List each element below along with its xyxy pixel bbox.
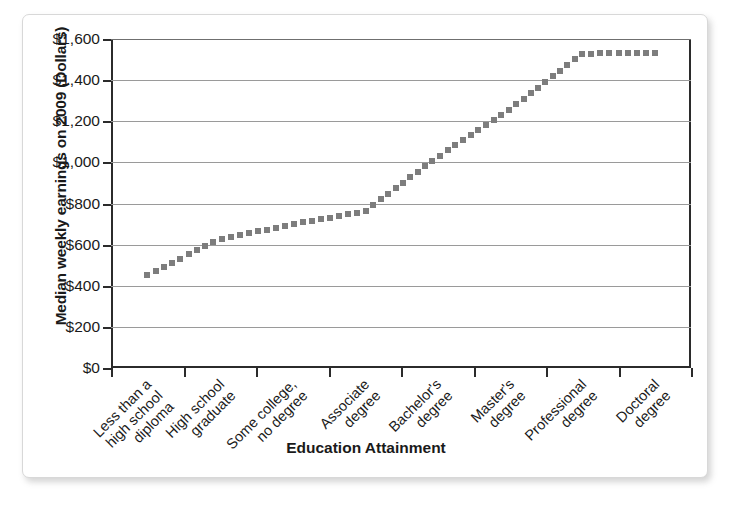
data-point: [370, 202, 376, 208]
x-tick-mark: [691, 368, 693, 377]
data-point: [579, 51, 585, 57]
y-tick-mark: [103, 327, 111, 329]
x-category-label: Bachelor'sdegree: [386, 376, 457, 447]
data-point: [345, 211, 351, 217]
data-point: [273, 225, 279, 231]
data-point: [153, 268, 159, 274]
plot-area: $0$200$400$600$800$1,000$1,200$1,400$1,6…: [111, 39, 691, 368]
data-point: [445, 147, 451, 153]
data-point: [264, 227, 270, 233]
y-tick-label: $800: [66, 195, 100, 213]
data-point: [219, 236, 225, 242]
data-point: [336, 213, 342, 219]
data-point: [542, 79, 548, 85]
x-axis-title: Education Attainment: [23, 439, 709, 457]
data-point: [437, 153, 443, 159]
y-tick-label: $1,600: [53, 30, 100, 48]
data-point: [460, 137, 466, 143]
data-point: [354, 210, 360, 216]
x-category-label: Master'sdegree: [467, 376, 528, 437]
y-tick-mark: [103, 162, 111, 164]
y-tick-label: $1,000: [53, 153, 100, 171]
y-tick-mark: [103, 121, 111, 123]
data-point: [415, 169, 421, 175]
data-point: [228, 234, 234, 240]
data-point: [407, 174, 413, 180]
data-point: [210, 239, 216, 245]
y-tick-label: $200: [66, 318, 100, 336]
y-tick-mark: [103, 245, 111, 247]
data-point: [452, 142, 458, 148]
x-category-label: Associatedegree: [316, 376, 383, 443]
data-point: [177, 256, 183, 262]
data-point: [521, 96, 527, 102]
data-point: [161, 264, 167, 270]
data-point: [550, 73, 556, 79]
data-point: [513, 101, 519, 107]
data-point: [475, 127, 481, 133]
data-series-earnings: [111, 39, 691, 368]
data-point: [202, 243, 208, 249]
data-point: [588, 51, 594, 57]
data-point: [422, 163, 428, 169]
data-point: [393, 185, 399, 191]
data-point: [506, 107, 512, 113]
data-point: [169, 260, 175, 266]
x-category-label: Doctoraldegree: [613, 376, 674, 437]
data-point: [246, 230, 252, 236]
data-point: [400, 180, 406, 186]
y-tick-mark: [103, 286, 111, 288]
data-point: [186, 251, 192, 257]
data-point: [237, 232, 243, 238]
data-point: [643, 50, 649, 56]
data-point: [652, 50, 658, 56]
data-point: [597, 50, 603, 56]
data-point: [528, 90, 534, 96]
y-tick-label: $1,200: [53, 112, 100, 130]
data-point: [363, 208, 369, 214]
data-point: [385, 191, 391, 197]
data-point: [255, 228, 261, 234]
y-tick-mark: [103, 80, 111, 82]
data-point: [429, 158, 435, 164]
data-point: [318, 216, 324, 222]
data-point: [282, 223, 288, 229]
data-point: [634, 50, 640, 56]
y-tick-mark: [103, 368, 111, 370]
y-tick-mark: [103, 204, 111, 206]
data-point: [327, 215, 333, 221]
data-point: [300, 219, 306, 225]
data-point: [144, 272, 150, 278]
chart-card: Median weekly earnings on 2009 (Dollars)…: [22, 14, 708, 478]
y-tick-mark: [103, 39, 111, 41]
data-point: [378, 196, 384, 202]
data-point: [491, 117, 497, 123]
data-point: [468, 132, 474, 138]
data-point: [564, 62, 570, 68]
data-point: [616, 50, 622, 56]
data-point: [557, 68, 563, 74]
data-point: [483, 122, 489, 128]
data-point: [625, 50, 631, 56]
data-point: [606, 50, 612, 56]
y-tick-label: $1,400: [53, 71, 100, 89]
data-point: [572, 56, 578, 62]
y-tick-label: $600: [66, 236, 100, 254]
data-point: [309, 218, 315, 224]
data-point: [535, 85, 541, 91]
data-point: [498, 112, 504, 118]
data-point: [194, 247, 200, 253]
y-tick-label: $400: [66, 277, 100, 295]
data-point: [291, 221, 297, 227]
y-tick-label: $0: [83, 359, 100, 377]
